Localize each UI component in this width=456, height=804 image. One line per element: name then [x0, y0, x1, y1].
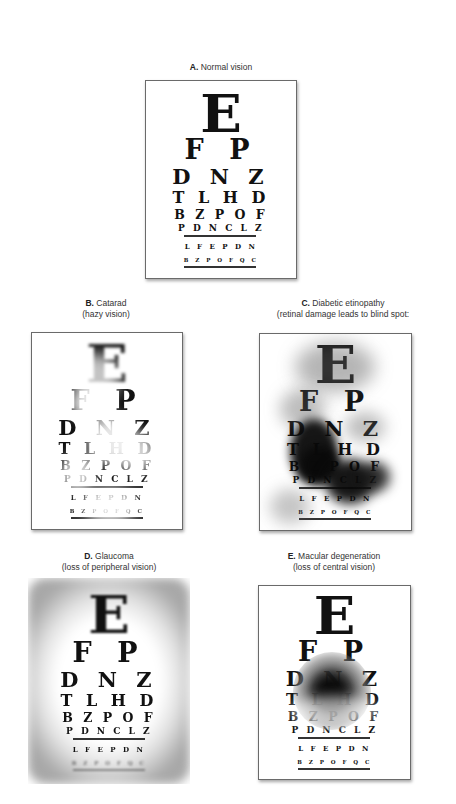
- eye-chart-macular-degeneration: E F P D N Z T L H D B Z P O F P D N C L …: [258, 585, 411, 780]
- chart-divider-top: [73, 738, 145, 740]
- chart-row-3: D N Z: [32, 418, 182, 438]
- panel-d-title: Glaucoma: [95, 551, 134, 561]
- panel-b-letter: B.: [85, 298, 94, 308]
- chart-row-8: B Z P O F Q C: [32, 508, 182, 515]
- chart-divider-bottom: [71, 517, 143, 519]
- chart-divider-bottom: [299, 518, 371, 520]
- panel-d-letter: D.: [84, 551, 93, 561]
- chart-row-7: L F E P D N: [28, 746, 190, 754]
- chart-row-3: D N Z: [260, 419, 411, 439]
- chart-row-1: E: [145, 89, 297, 139]
- eye-chart-normal: E F P D N Z T L H D B Z P O F P D N C L …: [145, 80, 297, 279]
- panel-e-caption: E. Macular degeneration (loss of central…: [250, 551, 418, 573]
- eye-chart-rows: E F P D N Z T L H D B Z P O F P D N C L …: [146, 81, 296, 278]
- chart-row-6: P D N C L Z: [146, 223, 296, 233]
- chart-row-7: L F E P D N: [146, 243, 296, 251]
- panel-c-title: Diabetic etinopathy: [312, 298, 384, 308]
- eye-chart-rows: E F P D N Z T L H D B Z P O F P D N C L …: [32, 333, 182, 529]
- chart-row-1: E: [31, 339, 183, 389]
- chart-row-5: B Z P O F: [32, 459, 182, 472]
- panel-e-title: Macular degeneration: [298, 551, 380, 561]
- chart-row-1: E: [259, 340, 412, 390]
- chart-divider-bottom: [184, 266, 256, 268]
- chart-row-7: L F E P D N: [260, 495, 411, 503]
- panel-a-caption: A. Normal vision: [145, 62, 297, 73]
- chart-row-6: P D N C L Z: [28, 726, 190, 736]
- eye-chart-cataract: E F P D N Z T L H D B Z P O F P D N C L …: [31, 332, 183, 530]
- chart-row-3: D N Z: [259, 669, 410, 689]
- panel-b-title: Catarad: [96, 298, 126, 308]
- chart-row-6: P D N C L Z: [32, 474, 182, 484]
- eye-chart-rows: E F P D N Z T L H D B Z P O F P D N C L …: [28, 578, 190, 784]
- chart-row-8: B Z P O F Q C: [260, 509, 411, 516]
- chart-row-4: T L H D: [260, 442, 411, 458]
- eye-chart-diabetic-retinopathy: E F P D N Z T L H D B Z P O F P D N C L …: [259, 333, 412, 531]
- chart-row-6: P D N C L Z: [260, 475, 411, 485]
- chart-row-4: T L H D: [146, 190, 296, 206]
- panel-a-letter: A.: [190, 62, 199, 72]
- chart-row-8: B Z P O F Q C: [28, 760, 190, 767]
- chart-divider-top: [71, 486, 143, 488]
- chart-row-3: D N Z: [28, 670, 190, 690]
- chart-row-5: B Z P O F: [28, 711, 190, 724]
- chart-row-4: T L H D: [32, 441, 182, 457]
- chart-divider-bottom: [73, 769, 145, 771]
- chart-row-1: E: [258, 591, 411, 641]
- chart-divider-top: [184, 235, 256, 237]
- chart-row-8: B Z P O F Q C: [146, 257, 296, 264]
- panel-b-subtitle: (hazy vision): [82, 309, 130, 319]
- chart-row-6: P D N C L Z: [259, 725, 410, 735]
- chart-row-5: B Z P O F: [146, 208, 296, 221]
- eye-chart-rows: E F P D N Z T L H D B Z P O F P D N C L …: [260, 334, 411, 530]
- panel-c-subtitle: (retinal damage leads to blind spot:: [277, 309, 409, 319]
- chart-row-8: B Z P O F Q C: [259, 759, 410, 766]
- chart-row-2: F P: [259, 639, 410, 665]
- chart-row-2: F P: [260, 389, 411, 415]
- chart-row-1: E: [28, 590, 190, 640]
- chart-divider-top: [298, 737, 370, 739]
- chart-row-2: F P: [28, 640, 190, 666]
- panel-c-caption: C. Diabetic etinopathy (retinal damage l…: [248, 298, 438, 320]
- chart-row-4: T L H D: [259, 692, 410, 708]
- panel-e-letter: E.: [288, 551, 296, 561]
- chart-row-7: L F E P D N: [259, 745, 410, 753]
- chart-divider-top: [299, 487, 371, 489]
- panel-b-caption: B. Catarad (hazy vision): [31, 298, 181, 320]
- panel-c-letter: C.: [301, 298, 310, 308]
- panel-e-subtitle: (loss of central vision): [293, 562, 375, 572]
- chart-row-5: B Z P O F: [260, 460, 411, 473]
- panel-a-title: Normal vision: [201, 62, 253, 72]
- chart-row-4: T L H D: [28, 693, 190, 709]
- chart-row-7: L F E P D N: [32, 494, 182, 502]
- chart-row-5: B Z P O F: [259, 710, 410, 723]
- panel-d-subtitle: (loss of peripheral vision): [62, 562, 156, 572]
- panel-d-caption: D. Glaucoma (loss of peripheral vision): [28, 551, 190, 573]
- chart-row-3: D N Z: [146, 167, 296, 187]
- eye-chart-glaucoma: E F P D N Z T L H D B Z P O F P D N C L …: [28, 578, 190, 784]
- chart-row-2: F P: [146, 137, 296, 163]
- chart-row-2: F P: [32, 388, 182, 414]
- chart-divider-bottom: [298, 768, 370, 770]
- eye-chart-rows: E F P D N Z T L H D B Z P O F P D N C L …: [259, 586, 410, 779]
